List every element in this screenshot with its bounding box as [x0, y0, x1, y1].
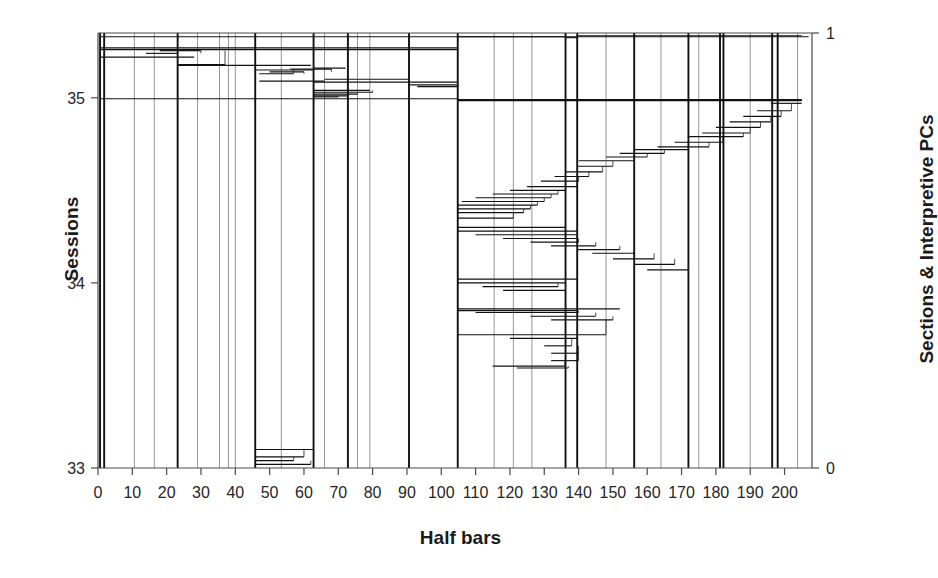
x-tick-label: 130	[531, 484, 558, 501]
x-tick-label: 140	[565, 484, 592, 501]
x-tick-label: 190	[737, 484, 764, 501]
x-tick-label: 10	[123, 484, 141, 501]
x-tick-label: 30	[192, 484, 210, 501]
x-tick-label: 40	[226, 484, 244, 501]
x-tick-label: 20	[158, 484, 176, 501]
x-tick-label: 50	[261, 484, 279, 501]
x-tick-label: 170	[668, 484, 695, 501]
y-axis-label-right: Sections & Interpretive PCs	[916, 69, 938, 409]
y-axis-label-left: Sessions	[61, 159, 83, 319]
x-tick-label: 160	[634, 484, 661, 501]
x-tick-label: 70	[329, 484, 347, 501]
x-tick-label: 0	[94, 484, 103, 501]
x-tick-label: 90	[398, 484, 416, 501]
x-tick-label: 80	[364, 484, 382, 501]
x-tick-label: 150	[600, 484, 627, 501]
y-tick-label-right: 0	[826, 460, 835, 477]
y-tick-label-right: 1	[826, 25, 835, 42]
x-tick-label: 60	[295, 484, 313, 501]
x-tick-label: 200	[771, 484, 798, 501]
y-tick-label-left: 35	[67, 90, 85, 107]
y-tick-label-left: 33	[67, 460, 85, 477]
x-axis-label: Half bars	[0, 527, 921, 549]
x-tick-label: 100	[428, 484, 455, 501]
x-tick-label: 110	[463, 484, 489, 501]
x-tick-label: 180	[703, 484, 730, 501]
x-tick-label: 120	[497, 484, 524, 501]
